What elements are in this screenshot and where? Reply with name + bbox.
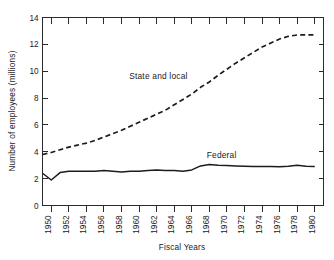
x-tick-label: 1960 xyxy=(132,215,141,234)
figure-container: 02468101214 1950195219541956195819601962… xyxy=(0,0,334,260)
x-axis-ticks xyxy=(51,206,314,212)
x-tick-label: 1962 xyxy=(150,215,159,234)
x-tick-label: 1974 xyxy=(255,215,264,234)
x-tick-label: 1950 xyxy=(44,215,53,234)
y-tick-label: 6 xyxy=(34,121,39,130)
y-axis-ticks: 02468101214 xyxy=(29,14,323,211)
y-tick-label: 0 xyxy=(34,202,39,211)
series-label-state-and-local: State and local xyxy=(129,71,187,81)
y-axis-title: Number of employees (millions) xyxy=(8,50,17,171)
y-tick-label: 8 xyxy=(34,94,39,103)
x-axis-tick-labels: 1950195219541956195819601962196419661968… xyxy=(44,215,316,234)
x-tick-label: 1966 xyxy=(185,215,194,234)
plot-frame xyxy=(43,18,324,206)
x-axis-title: Fiscal Years xyxy=(159,243,206,252)
x-tick-label: 1978 xyxy=(290,215,299,234)
x-tick-label: 1958 xyxy=(115,215,124,234)
y-tick-label: 2 xyxy=(34,175,39,184)
y-tick-label: 10 xyxy=(29,67,39,76)
x-tick-label: 1954 xyxy=(79,215,88,234)
y-tick-label: 12 xyxy=(29,40,39,49)
x-tick-label: 1972 xyxy=(237,215,246,234)
x-tick-label: 1964 xyxy=(167,215,176,234)
y-tick-label: 4 xyxy=(34,148,39,157)
x-tick-label: 1956 xyxy=(97,215,106,234)
series-label-federal: Federal xyxy=(207,150,237,160)
x-tick-label: 1970 xyxy=(220,215,229,234)
series-line-federal xyxy=(43,165,315,180)
x-tick-label: 1968 xyxy=(202,215,211,234)
x-tick-label: 1976 xyxy=(273,215,282,234)
x-axis-ticks-top xyxy=(51,18,314,24)
x-tick-label: 1952 xyxy=(62,215,71,234)
data-series-group xyxy=(43,35,315,180)
series-annotations: State and localFederal xyxy=(129,71,236,160)
line-chart: 02468101214 1950195219541956195819601962… xyxy=(0,0,334,260)
y-tick-label: 14 xyxy=(29,14,39,23)
x-tick-label: 1980 xyxy=(308,215,317,234)
series-line-state-and-local xyxy=(43,35,315,155)
